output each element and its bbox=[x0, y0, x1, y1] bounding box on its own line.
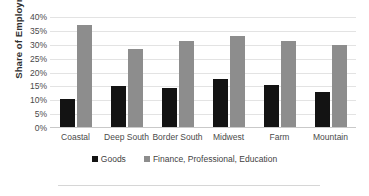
y-axis-tick: 15% bbox=[20, 81, 47, 91]
y-axis-tick: 30% bbox=[20, 40, 47, 50]
x-axis-tick: Midwest bbox=[203, 131, 254, 147]
bar-finance-farm[interactable] bbox=[281, 41, 296, 128]
bar-finance-coastal[interactable] bbox=[77, 25, 92, 128]
bar-group bbox=[50, 17, 101, 128]
x-axis-tick: Farm bbox=[254, 131, 305, 147]
legend-entry[interactable]: Finance, Professional, Education bbox=[144, 154, 277, 164]
bar-finance-mountain[interactable] bbox=[332, 45, 347, 128]
legend-swatch-icon bbox=[92, 156, 98, 162]
legend-label: Finance, Professional, Education bbox=[153, 154, 277, 164]
bar-goods-mountain[interactable] bbox=[315, 92, 330, 128]
bar-group bbox=[101, 17, 152, 128]
x-axis-tick-labels: CoastalDeep SouthBorder SouthMidwestFarm… bbox=[50, 131, 356, 147]
y-axis-tick: 35% bbox=[20, 26, 47, 36]
bar-group bbox=[254, 17, 305, 128]
bottom-divider bbox=[58, 185, 320, 186]
y-axis-tick: 0% bbox=[20, 123, 47, 133]
bar-chart: Share of Employment 40%35%30%25%20%15%10… bbox=[0, 0, 369, 196]
bar-goods-midwest[interactable] bbox=[213, 79, 228, 128]
bar-group bbox=[152, 17, 203, 128]
x-axis-line bbox=[50, 127, 356, 128]
y-axis-tick: 25% bbox=[20, 54, 47, 64]
bar-finance-deep-south[interactable] bbox=[128, 49, 143, 128]
bar-group bbox=[305, 17, 356, 128]
legend-label: Goods bbox=[101, 154, 126, 164]
chart-legend: GoodsFinance, Professional, Education bbox=[0, 152, 369, 166]
y-axis-tick: 10% bbox=[20, 95, 47, 105]
bar-goods-deep-south[interactable] bbox=[111, 86, 126, 128]
legend-entry[interactable]: Goods bbox=[92, 154, 126, 164]
plot-area bbox=[50, 17, 356, 128]
bar-goods-farm[interactable] bbox=[264, 85, 279, 128]
x-axis-tick: Coastal bbox=[50, 131, 101, 147]
bar-goods-coastal[interactable] bbox=[60, 99, 75, 128]
x-axis-tick: Deep South bbox=[101, 131, 152, 147]
bar-goods-border-south[interactable] bbox=[162, 88, 177, 128]
y-axis-tick: 5% bbox=[20, 109, 47, 119]
bar-finance-midwest[interactable] bbox=[230, 36, 245, 128]
y-axis-tick: 40% bbox=[20, 12, 47, 22]
legend-swatch-icon bbox=[144, 156, 150, 162]
x-axis-tick: Border South bbox=[152, 131, 203, 147]
bar-group bbox=[203, 17, 254, 128]
bars-layer bbox=[50, 17, 356, 128]
bar-finance-border-south[interactable] bbox=[179, 41, 194, 128]
y-axis-tick: 20% bbox=[20, 68, 47, 78]
x-axis-tick: Mountain bbox=[305, 131, 356, 147]
y-axis-tick-labels: 40%35%30%25%20%15%10%5%0% bbox=[20, 11, 47, 133]
